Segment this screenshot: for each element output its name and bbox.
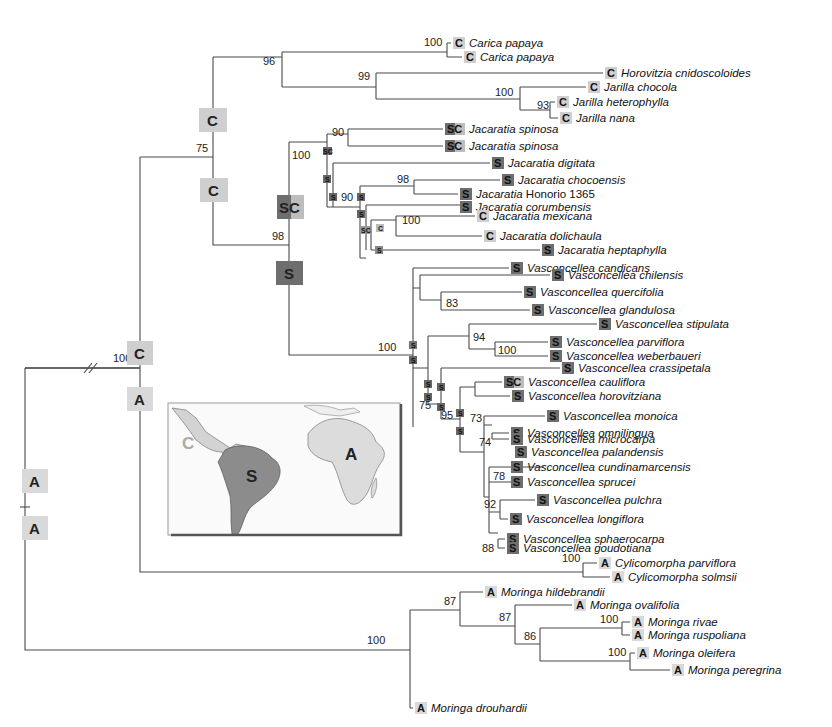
taxon-label: SVasconcellea pulchra bbox=[537, 494, 662, 506]
state-badge: C bbox=[559, 96, 567, 108]
support-100-jarilla: 100 bbox=[495, 86, 513, 98]
taxon-name: Moringa peregrina bbox=[688, 664, 781, 676]
state-badge: C bbox=[590, 81, 598, 93]
taxon-label: ACylicomorpha parviflora bbox=[599, 557, 736, 569]
svg-text:S: S bbox=[439, 404, 444, 411]
support-100-vasconcellea: 100 bbox=[378, 341, 396, 353]
support-78: 78 bbox=[493, 470, 505, 482]
taxon-label: SVasconcellea quercifolia bbox=[524, 286, 664, 298]
taxon-name: Moringa oleifera bbox=[653, 647, 735, 659]
support-96: 96 bbox=[263, 55, 275, 67]
taxon-label: SVasconcellea goudotiana bbox=[507, 542, 651, 554]
support-100-oleifera: 100 bbox=[608, 646, 626, 658]
taxon-label: SVasconcellea chilensis bbox=[552, 269, 684, 281]
taxon-name: Vasconcellea microcarpa bbox=[527, 433, 655, 445]
taxon-name: Carica papaya bbox=[469, 37, 543, 49]
state-badge: A bbox=[639, 647, 647, 659]
taxon-label: AMoringa ovalifolia bbox=[574, 599, 680, 611]
state-badge: S bbox=[462, 201, 469, 213]
taxon-name: Vasconcellea stipulata bbox=[615, 318, 729, 330]
state-badge: C bbox=[562, 112, 570, 124]
taxon-label: SVasconcellea monoica bbox=[547, 410, 678, 422]
node-75-branches bbox=[140, 57, 289, 245]
taxon-label: CJarilla chocola bbox=[588, 81, 677, 93]
taxon-name: Jacaratia Honorio 1365 bbox=[475, 188, 595, 200]
taxon-name: Moringa hildebrandii bbox=[501, 586, 605, 598]
support-98: 98 bbox=[272, 230, 284, 242]
taxon-name: Carica papaya bbox=[480, 51, 554, 63]
state-badge: A bbox=[634, 629, 642, 641]
state-badge: S bbox=[513, 433, 520, 445]
taxon-label: SJacaratia chocoensis bbox=[502, 174, 626, 186]
state-badge: A bbox=[634, 616, 642, 628]
state-badge: S bbox=[513, 262, 520, 274]
support-94: 94 bbox=[473, 331, 485, 343]
taxon-name: Vasconcellea chilensis bbox=[568, 269, 684, 281]
taxon-name: Moringa ovalifolia bbox=[590, 599, 680, 611]
taxon-name: Jacaratia heptaphylla bbox=[557, 244, 667, 256]
taxon-name: Vasconcellea sprucei bbox=[527, 476, 636, 488]
state-badge: C bbox=[455, 37, 463, 49]
svg-text:S: S bbox=[426, 394, 431, 401]
taxon-label: SCJacaratia spinosa bbox=[445, 140, 559, 152]
svg-text:S: S bbox=[284, 265, 294, 282]
state-badge: S bbox=[462, 188, 469, 200]
taxon-name: Jacaratia dolichaula bbox=[499, 230, 602, 242]
state-badge: S bbox=[513, 461, 520, 473]
state-badge: S bbox=[564, 362, 571, 374]
taxon-name: Jarilla chocola bbox=[603, 81, 677, 93]
taxon-name: Vasconcellea palandensis bbox=[531, 446, 664, 458]
svg-text:SC: SC bbox=[323, 148, 333, 155]
state-badge: A bbox=[614, 571, 622, 583]
taxon-label: SVasconcellea stipulata bbox=[599, 318, 729, 330]
taxon-label: SJacaratia heptaphylla bbox=[542, 244, 667, 256]
state-badge: A bbox=[674, 664, 682, 676]
support-98-chocoensis: 98 bbox=[397, 173, 409, 185]
taxon-name: Jacaratia spinosa bbox=[468, 123, 559, 135]
svg-text:S: S bbox=[458, 428, 463, 435]
taxon-label: SJacaratia digitata bbox=[492, 157, 595, 169]
svg-text:SC: SC bbox=[279, 199, 300, 216]
taxon-name: Vasconcellea parviflora bbox=[566, 336, 685, 348]
taxon-label: SJacaratia Honorio 1365 bbox=[460, 188, 595, 200]
svg-text:S: S bbox=[411, 342, 416, 349]
svg-text:S: S bbox=[359, 194, 364, 201]
state-badge: A bbox=[576, 599, 584, 611]
taxon-label: AMoringa peregrina bbox=[672, 664, 781, 676]
state-badge: A bbox=[601, 557, 609, 569]
taxon-label: SCVasconcellea cauliflora bbox=[504, 376, 645, 388]
taxon-label: SVasconcellea microcarpa bbox=[511, 433, 655, 445]
taxon-label: SVasconcellea weberbaueri bbox=[550, 350, 701, 362]
taxon-label: SVasconcellea crassipetala bbox=[562, 362, 711, 374]
svg-text:S: S bbox=[426, 381, 431, 388]
taxon-name: Cylicomorpha parviflora bbox=[615, 557, 736, 569]
state-badge: C bbox=[607, 67, 615, 79]
taxon-label: SVasconcellea sprucei bbox=[511, 476, 636, 488]
svg-text:S: S bbox=[331, 194, 336, 201]
state-badge: S bbox=[494, 157, 501, 169]
taxon-name: Vasconcellea pulchra bbox=[553, 494, 662, 506]
taxon-name: Moringa rivae bbox=[648, 616, 718, 628]
taxon-name: Jarilla nana bbox=[575, 112, 635, 124]
taxon-name: Jacaratia mexicana bbox=[492, 210, 592, 222]
state-badge: A bbox=[487, 586, 495, 598]
taxon-label: SVasconcellea palandensis bbox=[515, 446, 664, 458]
taxon-label: SVasconcellea longiflora bbox=[510, 513, 644, 525]
taxon-name: Vasconcellea glandulosa bbox=[548, 304, 675, 316]
taxon-name: Jarilla heterophylla bbox=[572, 96, 669, 108]
support-100-parviflora: 100 bbox=[498, 344, 516, 356]
svg-text:C: C bbox=[134, 345, 145, 362]
taxon-name: Moringa drouhardii bbox=[431, 702, 527, 714]
taxa-labels: CCarica papayaCCarica papayaCHorovitzia … bbox=[415, 37, 781, 714]
taxon-name: Cylicomorpha solmsii bbox=[628, 571, 737, 583]
state-badge: C bbox=[466, 51, 474, 63]
state-badge: C bbox=[479, 210, 487, 222]
support-75: 75 bbox=[196, 142, 208, 154]
taxon-name: Vasconcellea weberbaueri bbox=[566, 350, 701, 362]
support-100-rivae: 100 bbox=[600, 613, 618, 625]
state-badge: S bbox=[554, 269, 561, 281]
taxon-label: CJacaratia mexicana bbox=[477, 210, 592, 222]
taxon-name: Vasconcellea crassipetala bbox=[578, 362, 711, 374]
map-label-c: C bbox=[182, 434, 194, 453]
taxon-label: CCarica papaya bbox=[464, 51, 554, 63]
